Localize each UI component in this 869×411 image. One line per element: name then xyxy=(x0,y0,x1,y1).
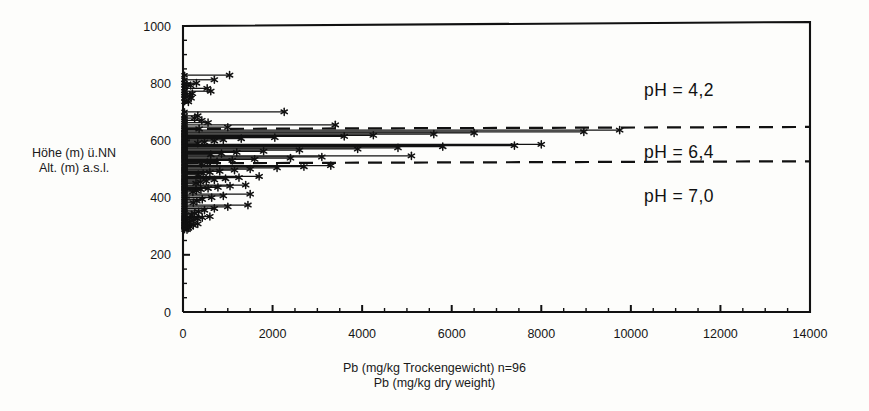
data-point-markers xyxy=(182,72,623,234)
y-axis-tick-labels: 02004006008001000 xyxy=(143,20,171,320)
y-axis-caption: Höhe (m) ü.NN Alt. (m) a.s.l. xyxy=(32,146,116,177)
x-tick-label: 10000 xyxy=(613,327,648,341)
x-tick-label: 2000 xyxy=(259,327,287,341)
x-axis-caption: Pb (mg/kg Trockengewicht) n=96 Pb (mg/kg… xyxy=(0,361,869,392)
y-tick-label: 400 xyxy=(150,191,171,205)
ph-zone-lower-label: pH = 7,0 xyxy=(644,186,714,207)
y-tick-label: 1000 xyxy=(143,20,171,34)
x-tick-label: 8000 xyxy=(527,327,555,341)
y-tick-label: 0 xyxy=(164,306,171,320)
x-tick-label: 4000 xyxy=(348,327,376,341)
plot-area: 02000400060008000100001200014000 0200400… xyxy=(0,0,869,411)
y-axis-caption-line-1: Höhe (m) ü.NN xyxy=(32,146,116,160)
x-axis-tick-labels: 02000400060008000100001200014000 xyxy=(180,327,828,341)
x-tick-label: 14000 xyxy=(793,327,828,341)
ph-zone-middle-label: pH = 6,4 xyxy=(644,142,714,163)
x-axis-caption-line-2: Pb (mg/kg dry weight) xyxy=(0,376,869,391)
x-tick-label: 12000 xyxy=(703,327,738,341)
x-tick-label: 6000 xyxy=(438,327,466,341)
y-tick-label: 800 xyxy=(150,77,171,91)
chart-figure: 02000400060008000100001200014000 0200400… xyxy=(0,0,869,411)
x-tick-label: 0 xyxy=(180,327,187,341)
y-tick-label: 200 xyxy=(150,248,171,262)
y-tick-label: 600 xyxy=(150,134,171,148)
ph-zone-upper-label: pH = 4,2 xyxy=(644,80,714,101)
y-axis-caption-line-2: Alt. (m) a.s.l. xyxy=(32,161,116,176)
x-axis-caption-line-1: Pb (mg/kg Trockengewicht) n=96 xyxy=(0,361,869,376)
